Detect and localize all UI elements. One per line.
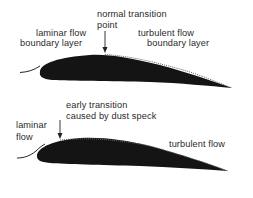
label-boundary-layer-turbulent: boundary layer [147,38,209,48]
laminar-flow-line-top [20,66,40,73]
label-turbulent-flow-bottom: turbulent flow [169,139,225,149]
airfoil-body-top [40,55,232,88]
label-early-transition: early transition [66,100,127,110]
label-caused-by-dust-speck: caused by dust speck [66,111,156,121]
label-boundary-layer-laminar: boundary layer [20,38,82,48]
label-laminar-flow: laminar flow [36,28,86,38]
label-point: point [97,20,117,30]
label-turbulent-flow: turbulent flow [138,28,194,38]
arrow-early-transition [58,120,63,139]
label-flow: flow [16,132,33,142]
label-normal-transition: normal transition [97,9,167,19]
arrow-normal-transition [103,31,108,53]
label-laminar: laminar [16,120,47,130]
